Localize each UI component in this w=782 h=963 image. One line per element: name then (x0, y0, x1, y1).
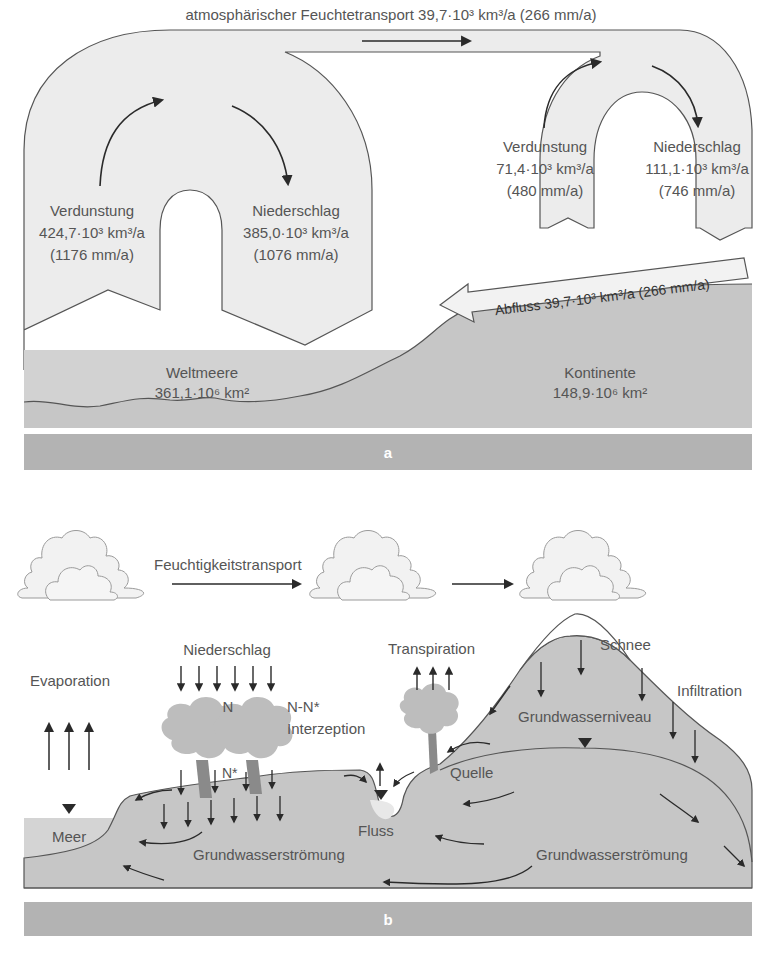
river-label: Fluss (358, 822, 394, 839)
svg-text:Niederschlag: Niederschlag (653, 138, 741, 155)
transpiration-label: Transpiration (388, 640, 475, 657)
svg-text:71,4·10³ km³/a: 71,4·10³ km³/a (496, 160, 594, 177)
n-minus-nstar-label: N-N* (287, 698, 320, 715)
sea-level-marker-icon (62, 804, 76, 814)
land-evaporation-label: Verdunstung 71,4·10³ km³/a (480 mm/a) (496, 138, 594, 199)
cloud-icon (520, 531, 646, 601)
land-precipitation-label: Niederschlag 111,1·10³ km³/a (746 mm/a) (645, 138, 749, 199)
sea-label: Meer (52, 828, 86, 845)
svg-text:148,9·10⁶ km²: 148,9·10⁶ km² (553, 384, 648, 401)
svg-text:(1076 mm/a): (1076 mm/a) (253, 246, 338, 263)
spring-label: Quelle (450, 764, 493, 781)
svg-text:Niederschlag: Niederschlag (252, 202, 340, 219)
evaporation-arrows (49, 724, 89, 770)
svg-text:(1176 mm/a): (1176 mm/a) (50, 246, 134, 263)
groundwater-level-label: Grundwasserniveau (518, 708, 651, 725)
precipitation-arrows (181, 666, 271, 690)
water-cycle-diagram: atmosphärischer Feuchtetransport 39,7·10… (0, 0, 782, 963)
panel-b: Feuchtigkeitstransport (18, 531, 752, 937)
cloud-icon (310, 531, 436, 601)
ocean-precipitation-label: Niederschlag 385,0·10³ km³/a (1076 mm/a) (243, 202, 350, 263)
infiltration-label: Infiltration (677, 682, 742, 699)
atmospheric-transport-label: atmosphärischer Feuchtetransport 39,7·10… (186, 6, 597, 23)
svg-text:Verdunstung: Verdunstung (503, 138, 587, 155)
panel-a-letter: a (384, 444, 393, 461)
interception-label: Interzeption (287, 720, 365, 737)
n-label: N (223, 698, 234, 715)
svg-text:(746 mm/a): (746 mm/a) (659, 182, 736, 199)
groundwater-flow-left-label: Grundwasserströmung (193, 846, 345, 863)
svg-text:361,1·10⁶ km²: 361,1·10⁶ km² (155, 384, 250, 401)
svg-text:Weltmeere: Weltmeere (166, 364, 238, 381)
panel-a: atmosphärischer Feuchtetransport 39,7·10… (24, 6, 752, 470)
svg-text:(480 mm/a): (480 mm/a) (507, 182, 584, 199)
moisture-transport-label: Feuchtigkeitstransport (154, 556, 302, 573)
cloud-icon (18, 531, 144, 601)
evaporation-label: Evaporation (30, 672, 110, 689)
snow-label: Schnee (600, 636, 651, 653)
precipitation-label: Niederschlag (183, 641, 271, 658)
svg-text:Kontinente: Kontinente (564, 364, 636, 381)
ocean-evaporation-label: Verdunstung 424,7·10³ km³/a (1176 mm/a) (39, 202, 146, 263)
groundwater-flow-right-label: Grundwasserströmung (536, 846, 688, 863)
svg-text:385,0·10³ km³/a: 385,0·10³ km³/a (243, 224, 350, 241)
svg-text:Verdunstung: Verdunstung (50, 202, 134, 219)
svg-text:424,7·10³ km³/a: 424,7·10³ km³/a (39, 224, 146, 241)
transpiration-arrows (417, 668, 449, 690)
svg-text:111,1·10³ km³/a: 111,1·10³ km³/a (645, 160, 749, 177)
panel-b-letter: b (383, 911, 392, 928)
nstar-label: N* (222, 765, 238, 781)
